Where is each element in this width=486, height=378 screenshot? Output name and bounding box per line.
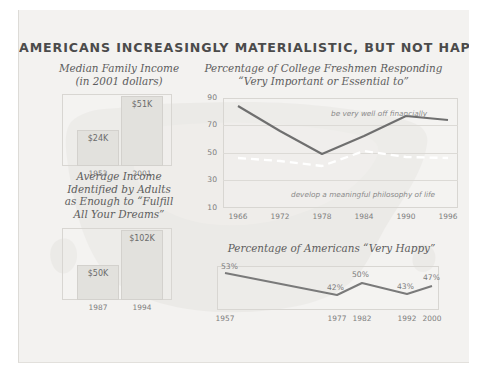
line-series-layer: [181, 62, 466, 237]
point-label-1977: 42%: [327, 283, 344, 292]
xtick-1972: 1972: [261, 212, 299, 221]
point-label-2000: 47%: [423, 273, 440, 282]
xtick-2000: 2000: [416, 314, 448, 323]
page-title: AMERICANS INCREASINGLY MATERIALISTIC, BU…: [19, 40, 469, 55]
title-line-1: Average Income: [76, 170, 161, 182]
series-philosophy-line: [238, 151, 448, 166]
infographic-poster: AMERICANS INCREASINGLY MATERIALISTIC, BU…: [18, 10, 469, 363]
chart-college-freshmen: Percentage of College Freshmen Respondin…: [181, 62, 466, 237]
bar-label-1953: $24K: [77, 134, 119, 143]
title-line-2: (in 2001 dollars): [75, 75, 162, 87]
title-line-4: All Your Dreams”: [74, 208, 165, 220]
title-line-2: Identified by Adults: [67, 183, 171, 195]
xtick-1990: 1990: [387, 212, 425, 221]
chart-median-family-income: Median Family Income (in 2001 dollars) $…: [39, 62, 199, 172]
series-label-financially: be very well off financially: [331, 109, 427, 118]
xtick-1987: 1987: [77, 303, 119, 312]
chart-very-happy: Percentage of Americans “Very Happy” 53%…: [199, 242, 464, 332]
xtick-1994: 1994: [121, 303, 163, 312]
xtick-1957: 1957: [209, 314, 241, 323]
xtick-1966: 1966: [219, 212, 257, 221]
xtick-1978: 1978: [303, 212, 341, 221]
bar-label-1994: $102K: [121, 234, 163, 243]
chart-title-fulfill-dreams: Average Income Identified by Adults as E…: [37, 170, 201, 220]
bar-label-1987: $50K: [77, 269, 119, 278]
xtick-1996: 1996: [429, 212, 467, 221]
point-label-1957: 53%: [221, 262, 238, 271]
bar-label-2001: $51K: [121, 100, 163, 109]
point-label-1982: 50%: [352, 270, 369, 279]
xtick-1984: 1984: [345, 212, 383, 221]
xtick-1982: 1982: [346, 314, 378, 323]
title-line-1: Median Family Income: [59, 62, 179, 74]
chart-title-median-income: Median Family Income (in 2001 dollars): [39, 62, 199, 87]
point-label-1992: 43%: [397, 282, 414, 291]
title-line-3: as Enough to “Fulfill: [65, 195, 174, 207]
series-label-philosophy: develop a meaningful philosophy of life: [291, 190, 435, 199]
chart-enough-to-fulfill-dreams: Average Income Identified by Adults as E…: [39, 170, 199, 335]
